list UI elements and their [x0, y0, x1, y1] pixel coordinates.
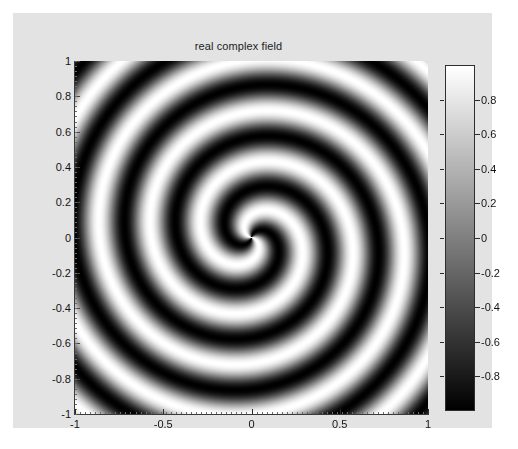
x-axis-line [75, 414, 429, 415]
y-tick-label: 1 [35, 55, 71, 67]
colorbar-tick-label: -0.4 [481, 301, 500, 313]
colorbar-tick-label: 0.6 [481, 128, 496, 140]
figure-canvas: real complex field 10.80.60.40.20-0.2-0.… [13, 13, 492, 428]
colorbar-tick-label: 0.4 [481, 163, 496, 175]
x-tick-label: -1 [49, 418, 101, 430]
colorbar-tick-label: 0.2 [481, 197, 496, 209]
page-title: real complex field [62, 40, 415, 52]
heatmap-axes[interactable] [75, 61, 428, 414]
y-tick-label: -0.4 [35, 302, 71, 314]
x-tick-label: 1 [402, 418, 454, 430]
y-tick-label: 0.6 [35, 126, 71, 138]
y-tick-label: -0.2 [35, 267, 71, 279]
y-tick-label: 0 [35, 232, 71, 244]
x-tick-label: -0.5 [137, 418, 189, 430]
x-tick-label: 0 [226, 418, 278, 430]
complex-field-image [75, 61, 428, 414]
y-tick-label: -0.8 [35, 373, 71, 385]
colorbar-tick-label: 0.8 [481, 94, 496, 106]
colorbar-tick-label: -0.6 [481, 336, 500, 348]
y-axis-tick-labels: 10.80.60.40.20-0.2-0.4-0.6-0.8-1 [29, 13, 71, 449]
colorbar-tick-label: 0 [481, 232, 487, 244]
y-tick-label: 0.2 [35, 196, 71, 208]
y-tick-label: 0.4 [35, 161, 71, 173]
x-tick-label: 0.5 [314, 418, 366, 430]
y-tick-label: -0.6 [35, 337, 71, 349]
colorbar-tick-label: -0.8 [481, 370, 500, 382]
y-tick-label: 0.8 [35, 90, 71, 102]
colorbar[interactable] [445, 65, 475, 411]
colorbar-tick-label: -0.2 [481, 267, 500, 279]
